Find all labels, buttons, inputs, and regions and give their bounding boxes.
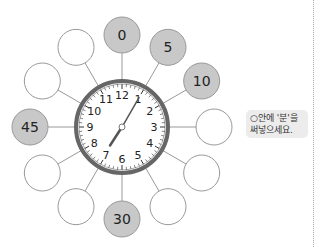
clock-number: 6	[119, 153, 126, 166]
clock-number: 9	[87, 121, 94, 134]
minute-label: 0	[118, 27, 127, 43]
clock-number: 12	[115, 89, 129, 102]
instruction-note: ○안에 '분'을 써넣으세요.	[246, 110, 308, 138]
minute-circle[interactable]	[196, 109, 232, 145]
minute-label: 45	[21, 119, 39, 135]
clock-number: 5	[135, 149, 142, 162]
minute-circle[interactable]	[150, 189, 186, 225]
note-line1: ○안에 '분'을	[250, 112, 304, 124]
clock-number: 3	[151, 121, 158, 134]
minute-circle[interactable]	[58, 189, 94, 225]
minute-circle[interactable]	[184, 155, 220, 191]
minute-circle[interactable]	[24, 63, 60, 99]
minute-circle[interactable]	[58, 29, 94, 65]
clock-number: 11	[99, 93, 113, 106]
clock-number: 2	[146, 105, 153, 118]
clock-number: 10	[87, 105, 101, 118]
clock-number: 4	[146, 137, 153, 150]
minute-label: 5	[164, 39, 173, 55]
minute-circle[interactable]	[24, 155, 60, 191]
minute-label: 10	[193, 73, 211, 89]
clock-number: 7	[103, 149, 110, 162]
minute-label: 30	[113, 211, 131, 227]
clock-number: 8	[91, 137, 98, 150]
note-line2: 써넣으세요.	[250, 124, 304, 136]
page-divider	[313, 0, 314, 247]
